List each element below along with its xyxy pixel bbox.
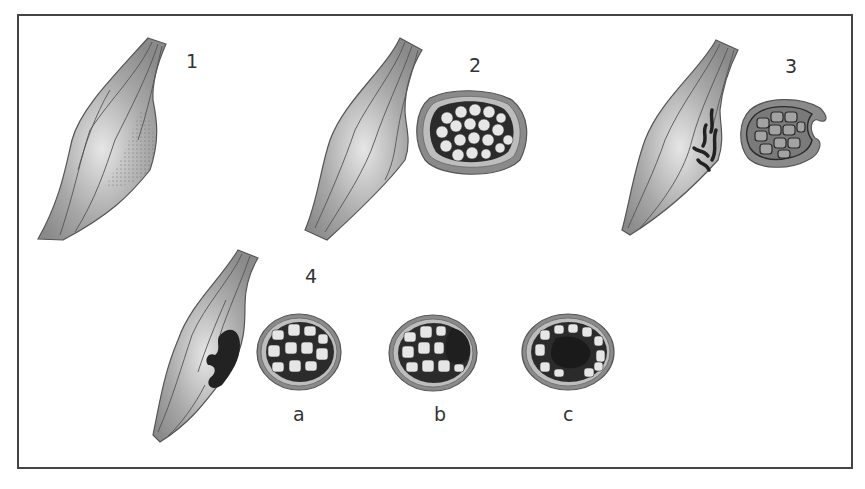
cross-section-3 xyxy=(741,100,826,168)
muscle-3 xyxy=(622,40,738,235)
diagram-canvas: 1 2 xyxy=(0,0,865,489)
cross-section-4c xyxy=(522,314,614,390)
label-a: a xyxy=(293,403,305,425)
label-3: 3 xyxy=(785,55,797,77)
cross-section-2 xyxy=(417,91,527,175)
panel-4: 4 a b c xyxy=(153,250,614,442)
cross-section-4b xyxy=(389,315,477,391)
muscle-2 xyxy=(305,38,422,240)
panel-2: 2 xyxy=(305,38,527,240)
label-1: 1 xyxy=(186,50,198,72)
label-4: 4 xyxy=(305,265,317,287)
label-c: c xyxy=(563,403,573,425)
label-b: b xyxy=(434,403,446,425)
muscle-4 xyxy=(153,250,258,442)
panel-3: 3 xyxy=(622,40,826,235)
label-2: 2 xyxy=(469,54,481,76)
cross-section-4a xyxy=(257,314,341,390)
panel-1: 1 xyxy=(38,38,198,240)
